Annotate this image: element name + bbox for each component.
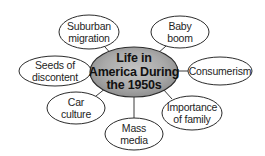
label-line: Consumerism [189,65,252,77]
label-car-culture: Car culture [61,96,91,120]
label-baby-boom: Baby boom [167,20,192,44]
label-consumerism: Consumerism [189,65,252,77]
label-mass-media: Mass media [120,122,148,146]
label-line: Baby [167,20,192,32]
label-line: Car [61,96,91,108]
label-suburban-migration: Suburban migration [67,20,111,44]
center-line-3: the 1950s [89,79,179,93]
label-line: of family [167,113,218,125]
label-line: media [120,134,148,146]
label-line: Seeds of [32,59,78,71]
label-line: Mass [120,122,148,134]
label-line: Importance [167,101,218,113]
label-line: discontent [32,71,78,83]
center-node-label: Life in America During the 1950s [89,52,179,93]
label-importance-of-family: Importance of family [167,101,218,125]
center-line-2: America During [89,65,179,79]
center-line-1: Life in [89,52,179,66]
label-line: culture [61,108,91,120]
label-seeds-of-discontent: Seeds of discontent [32,59,78,83]
label-line: boom [167,32,192,44]
label-line: Suburban [67,20,111,32]
label-line: migration [67,32,111,44]
